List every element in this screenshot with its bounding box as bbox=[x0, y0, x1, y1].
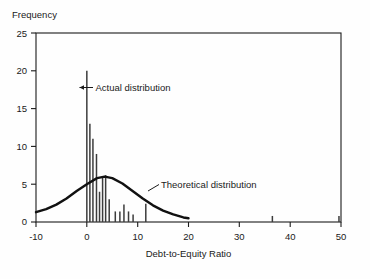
x-axis-title: Debt-to-Equity Ratio bbox=[146, 248, 232, 259]
frequency-distribution-chart: Frequency 0 5 10 15 20 25 bbox=[0, 0, 370, 279]
x-tick-label-30: 30 bbox=[234, 231, 245, 242]
x-axis-ticks bbox=[36, 222, 341, 227]
theoretical-distribution-label: Theoretical distribution bbox=[161, 179, 257, 190]
y-tick-label-10: 10 bbox=[16, 141, 27, 152]
actual-distribution-label: Actual distribution bbox=[96, 82, 171, 93]
y-tick-label-15: 15 bbox=[16, 103, 27, 114]
x-tick-label-50: 50 bbox=[336, 231, 347, 242]
x-axis-tick-labels: -10 0 10 20 30 40 50 bbox=[29, 231, 346, 242]
x-tick-label-10: 10 bbox=[132, 231, 143, 242]
actual-distribution-annotation: Actual distribution bbox=[80, 82, 171, 93]
y-axis-ticks bbox=[31, 33, 36, 222]
theoretical-annotation-leader-line bbox=[148, 185, 159, 192]
plot-frame bbox=[36, 33, 341, 222]
y-tick-label-20: 20 bbox=[16, 65, 27, 76]
x-tick-label-20: 20 bbox=[183, 231, 194, 242]
chart-container: Frequency 0 5 10 15 20 25 bbox=[0, 0, 370, 279]
y-axis-title: Frequency bbox=[12, 9, 57, 20]
y-tick-label-25: 25 bbox=[16, 28, 27, 39]
x-tick-label-40: 40 bbox=[285, 231, 296, 242]
y-tick-label-0: 0 bbox=[22, 216, 27, 227]
actual-distribution-bars bbox=[87, 71, 339, 222]
actual-annotation-arrowhead-icon bbox=[80, 85, 85, 90]
plot-border bbox=[36, 33, 341, 222]
x-tick-label-0: 0 bbox=[84, 231, 89, 242]
y-tick-label-5: 5 bbox=[22, 179, 27, 190]
theoretical-distribution-annotation: Theoretical distribution bbox=[148, 179, 257, 191]
x-tick-label-minus10: -10 bbox=[29, 231, 43, 242]
y-axis-tick-labels: 0 5 10 15 20 25 bbox=[16, 28, 27, 228]
